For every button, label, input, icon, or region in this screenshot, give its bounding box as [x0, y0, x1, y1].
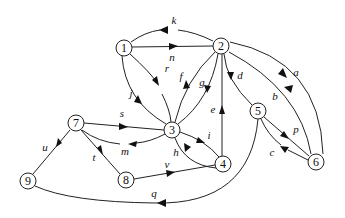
- node-3: 3: [164, 122, 180, 138]
- edge-k: [131, 30, 213, 42]
- node-6: 6: [308, 154, 324, 170]
- arrowhead-e: [219, 105, 225, 114]
- arrowhead-n: [169, 43, 178, 50]
- edge-label-a: a: [293, 66, 299, 78]
- edge-u: [33, 130, 70, 174]
- arrowhead-v: [166, 170, 175, 177]
- edges: a b c d e f g h i j: [33, 14, 323, 207]
- node-1: 1: [116, 40, 132, 56]
- edge-label-n: n: [169, 51, 175, 63]
- svg-text:6: 6: [313, 155, 319, 169]
- node-4: 4: [215, 156, 231, 172]
- edge-label-h: h: [173, 146, 179, 158]
- edge-label-s: s: [120, 107, 124, 119]
- edge-label-q: q: [151, 187, 157, 199]
- edge-h: [175, 138, 216, 168]
- node-5: 5: [250, 103, 266, 119]
- edge-label-d: d: [237, 69, 243, 81]
- edge-c: [261, 119, 308, 160]
- svg-text:5: 5: [255, 104, 261, 118]
- arrowhead-c: [280, 146, 289, 153]
- arrowhead-m: [128, 141, 137, 147]
- edge-m: [82, 130, 165, 144]
- svg-text:3: 3: [169, 123, 175, 137]
- edge-label-j: j: [127, 87, 132, 99]
- edge-label-g: g: [199, 76, 205, 88]
- arrowhead-i: [196, 137, 205, 143]
- arrowhead-d: [227, 72, 234, 80]
- svg-text:4: 4: [220, 157, 226, 171]
- edge-label-b: b: [272, 90, 278, 102]
- edge-label-p: p: [292, 123, 299, 135]
- arrowhead-t: [97, 145, 103, 155]
- arrowhead-h: [184, 143, 191, 152]
- svg-text:1: 1: [121, 41, 127, 55]
- svg-text:8: 8: [123, 173, 129, 187]
- edge-label-e: e: [211, 103, 216, 115]
- arrowhead-q: [157, 199, 166, 207]
- svg-text:9: 9: [25, 174, 31, 188]
- svg-text:7: 7: [73, 116, 79, 130]
- arrowhead-s: [119, 123, 128, 130]
- edge-label-r: r: [165, 62, 170, 74]
- edge-label-k: k: [172, 14, 178, 26]
- edge-label-i: i: [207, 129, 210, 141]
- node-8: 8: [118, 172, 134, 188]
- edge-label-f: f: [179, 70, 184, 82]
- edge-label-v: v: [165, 158, 170, 170]
- edge-label-t: t: [92, 151, 96, 163]
- edge-label-u: u: [42, 141, 48, 153]
- directed-graph: a b c d e f g h i j: [0, 0, 345, 218]
- edge-label-m: m: [121, 145, 129, 157]
- arrowhead-k: [159, 26, 168, 34]
- edge-label-c: c: [270, 146, 275, 158]
- arrowhead-a: [278, 68, 287, 78]
- node-7: 7: [68, 115, 84, 131]
- node-2: 2: [213, 38, 229, 54]
- arrowhead-b: [284, 85, 293, 93]
- arrowhead-u: [56, 138, 62, 147]
- node-9: 9: [20, 173, 36, 189]
- svg-text:2: 2: [218, 39, 224, 53]
